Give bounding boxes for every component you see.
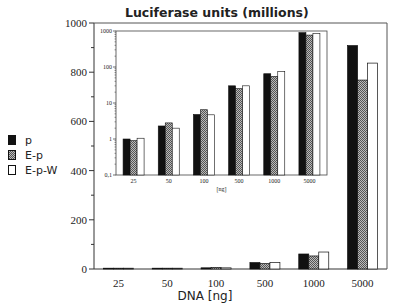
inset-x-tick-label: 100 (199, 178, 208, 184)
inset-x-tick-label: 50 (166, 178, 172, 184)
inset-bar-E-p (236, 89, 243, 175)
inset-bar-p (193, 114, 200, 175)
inset-bar-E-p-W (207, 115, 214, 175)
inset-bar-p (229, 86, 236, 175)
bar-E-p (211, 267, 221, 269)
bar-p (152, 268, 162, 269)
inset-bar-E-p (271, 76, 278, 175)
legend-label: E-p (25, 149, 43, 162)
inset-y-tick-label: 10 (106, 100, 112, 106)
chart-title: Luciferase units (millions) (125, 5, 309, 20)
inset-bar-p (299, 33, 306, 175)
bar-E-p (113, 268, 123, 269)
x-tick-label: 500 (257, 277, 274, 289)
inset-bar-p (123, 139, 130, 175)
inset-bar-E-p-W (278, 71, 285, 175)
bar-p (201, 268, 211, 269)
inset-bar-E-p (200, 110, 207, 175)
inset-bar-E-p-W (313, 34, 320, 175)
swatch-hatched (8, 150, 16, 160)
inset-y-tick-label: 1000 (100, 28, 112, 34)
inset-y-tick-label: 100 (103, 64, 112, 70)
x-tick-label: 100 (208, 277, 225, 289)
y-tick-label: 800 (71, 66, 88, 78)
legend-item-p: p (8, 133, 57, 147)
x-tick-label: 25 (113, 277, 125, 289)
bar-p (299, 254, 309, 269)
bar-E-p-W (319, 252, 329, 269)
inset-bar-E-p (130, 141, 137, 175)
y-tick-label: 1000 (65, 17, 88, 29)
x-tick-label: 1000 (303, 277, 326, 289)
bar-p (103, 268, 113, 269)
bar-E-p (358, 80, 368, 269)
y-tick-label: 0 (82, 263, 88, 275)
bar-E-p-W (270, 262, 280, 269)
inset-bar-p (264, 74, 271, 175)
legend-item-e-p-w: E-p-W (8, 163, 57, 177)
inset-bar-E-p-W (172, 128, 179, 175)
inset-x-label: [ng] (217, 186, 227, 193)
bar-E-p (260, 264, 270, 269)
x-tick-label: 5000 (352, 277, 375, 289)
inset-x-tick-label: 5000 (303, 178, 315, 184)
swatch-white (8, 165, 16, 175)
inset-bar-E-p (306, 35, 313, 175)
bar-E-p-W (172, 268, 182, 269)
y-tick-label: 200 (71, 214, 88, 226)
inset-y-tick-label: 0,1 (105, 172, 113, 178)
inset-bar-p (158, 126, 165, 175)
legend-label: p (25, 134, 32, 147)
bar-E-p-W (368, 63, 378, 269)
y-tick-label: 400 (71, 165, 88, 177)
bar-p (348, 46, 358, 269)
y-tick-label: 600 (71, 115, 88, 127)
luciferase-chart: 02004006008001000255010050010005000 0,11… (0, 0, 398, 308)
x-tick-label: 50 (162, 277, 174, 289)
bar-p (250, 263, 260, 269)
legend-label: E-p-W (25, 164, 57, 177)
inset-bar-E-p-W (137, 138, 144, 175)
inset-bar-E-p (165, 123, 172, 175)
inset-chart: 0,11101001000255010050010005000[ng] (100, 28, 327, 193)
inset-y-tick-label: 1 (109, 136, 112, 142)
bar-E-p-W (221, 268, 231, 269)
legend: p E-p E-p-W (8, 133, 57, 178)
inset-bar-E-p-W (243, 86, 250, 175)
legend-item-e-p: E-p (8, 148, 57, 162)
inset-x-tick-label: 25 (131, 178, 137, 184)
bar-E-p (162, 268, 172, 269)
inset-x-tick-label: 500 (235, 178, 244, 184)
bar-E-p-W (123, 268, 133, 269)
x-axis-label: DNA [ng] (178, 289, 233, 303)
bar-E-p (309, 256, 319, 269)
inset-x-tick-label: 1000 (268, 178, 280, 184)
swatch-black (8, 135, 16, 145)
